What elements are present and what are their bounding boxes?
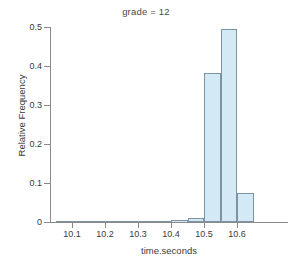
plot-area: 00.10.20.30.40.5 10.110.210.310.410.510.… bbox=[0, 0, 292, 267]
x-tick-mark bbox=[204, 222, 205, 228]
x-tick-mark bbox=[138, 222, 139, 228]
x-tick-mark bbox=[237, 222, 238, 228]
x-tick-mark bbox=[72, 222, 73, 228]
x-tick-mark bbox=[105, 222, 106, 228]
histogram-bar bbox=[237, 193, 254, 222]
x-tick-mark bbox=[171, 222, 172, 228]
histogram-bar bbox=[188, 218, 205, 222]
histogram-bar bbox=[138, 221, 155, 222]
y-tick-label-text: 0.5 bbox=[6, 22, 42, 32]
y-tick-mark bbox=[44, 66, 50, 67]
histogram-bar bbox=[204, 73, 221, 222]
histogram-bar bbox=[56, 221, 73, 222]
y-tick-mark bbox=[44, 183, 50, 184]
y-tick-label: 0 bbox=[0, 217, 42, 227]
x-tick-label: 10.6 bbox=[217, 229, 257, 239]
chart-root: grade = 12 00.10.20.30.40.5 10.110.210.3… bbox=[0, 0, 292, 267]
histogram-bar bbox=[72, 221, 89, 222]
histogram-bar bbox=[221, 29, 238, 222]
histogram-bar bbox=[122, 221, 139, 222]
y-tick-mark bbox=[44, 27, 50, 28]
histogram-bar bbox=[105, 221, 122, 222]
histogram-bar bbox=[89, 221, 106, 222]
y-tick-mark bbox=[44, 144, 50, 145]
y-axis-line bbox=[50, 27, 51, 223]
y-tick-mark bbox=[44, 105, 50, 106]
histogram-bar bbox=[171, 220, 188, 222]
y-tick-label: 0.5 bbox=[0, 22, 42, 32]
y-tick-label-text: 0 bbox=[6, 217, 42, 227]
histogram-bar bbox=[155, 221, 172, 222]
x-axis-line bbox=[50, 222, 288, 223]
y-axis-title: Relative Frequency bbox=[16, 46, 27, 186]
x-axis-title: time.seconds bbox=[50, 245, 288, 256]
y-tick-mark bbox=[44, 222, 50, 223]
